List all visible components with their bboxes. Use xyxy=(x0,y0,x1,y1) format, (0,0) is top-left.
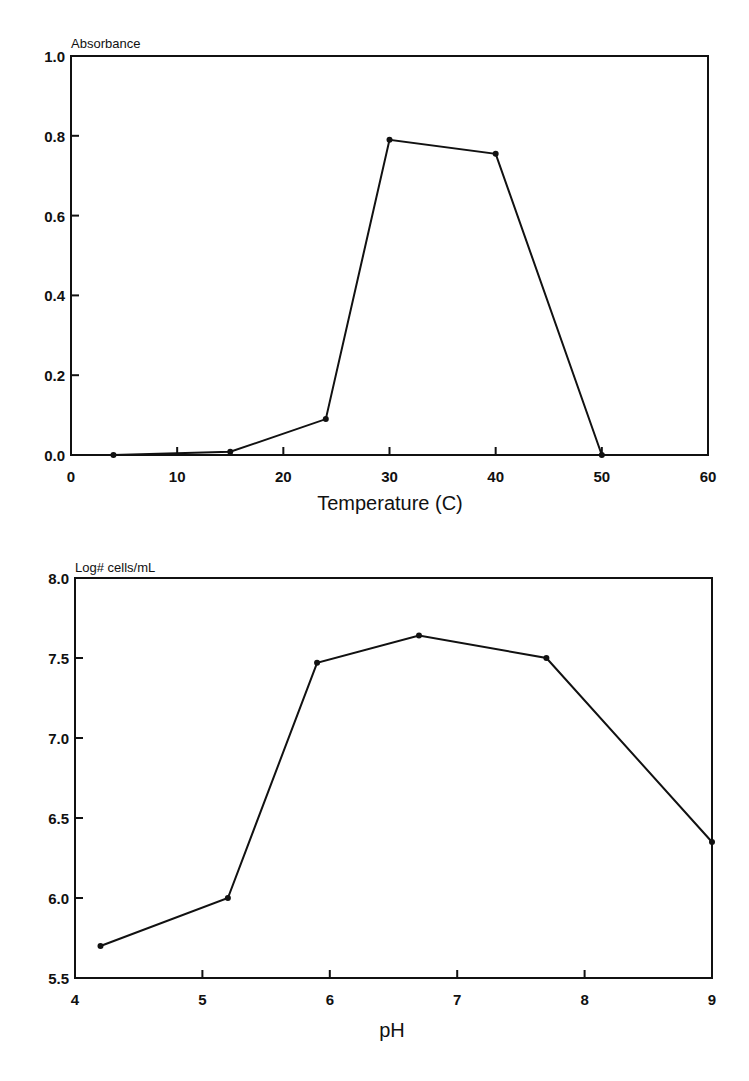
y-axis: 5.56.06.57.07.58.0 xyxy=(48,570,83,987)
plot-frame xyxy=(71,56,708,455)
data-line xyxy=(101,636,713,946)
data-line xyxy=(114,140,602,455)
y-axis-title: Log# cells/mL xyxy=(75,560,155,575)
data-point xyxy=(314,660,320,666)
y-tick-label: 7.5 xyxy=(48,650,69,667)
y-tick-label: 5.5 xyxy=(48,970,69,987)
y-tick-label: 1.0 xyxy=(44,48,65,65)
x-tick-label: 4 xyxy=(71,991,80,1008)
data-point xyxy=(493,151,499,157)
x-axis: 456789 xyxy=(71,970,716,1008)
x-tick-label: 50 xyxy=(593,468,610,485)
y-tick-label: 0.8 xyxy=(44,128,65,145)
data-point xyxy=(97,943,103,949)
y-tick-label: 0.0 xyxy=(44,447,65,464)
figure: Absorbance 0.00.20.40.60.81.0 0102030405… xyxy=(0,0,749,1081)
data-markers xyxy=(110,137,604,458)
x-tick-label: 7 xyxy=(453,991,461,1008)
y-tick-label: 7.0 xyxy=(48,730,69,747)
data-point xyxy=(416,633,422,639)
x-tick-label: 0 xyxy=(67,468,75,485)
y-tick-label: 0.6 xyxy=(44,208,65,225)
x-axis-title: Temperature (C) xyxy=(317,492,463,514)
x-tick-label: 9 xyxy=(708,991,716,1008)
data-point xyxy=(110,452,116,458)
data-point xyxy=(543,655,549,661)
x-tick-label: 60 xyxy=(700,468,717,485)
y-tick-label: 6.0 xyxy=(48,890,69,907)
plot-frame xyxy=(75,578,712,978)
x-tick-label: 10 xyxy=(169,468,186,485)
y-axis: 0.00.20.40.60.81.0 xyxy=(44,48,79,464)
x-tick-label: 20 xyxy=(275,468,292,485)
y-tick-label: 6.5 xyxy=(48,810,69,827)
x-axis-title: pH xyxy=(379,1019,405,1041)
y-axis-title: Absorbance xyxy=(71,36,140,51)
data-point xyxy=(599,452,605,458)
x-tick-label: 8 xyxy=(580,991,588,1008)
data-point xyxy=(387,137,393,143)
data-markers xyxy=(97,633,715,949)
data-point xyxy=(227,449,233,455)
data-point xyxy=(323,416,329,422)
y-tick-label: 8.0 xyxy=(48,570,69,587)
x-tick-label: 40 xyxy=(487,468,504,485)
x-tick-label: 30 xyxy=(381,468,398,485)
x-tick-label: 5 xyxy=(198,991,206,1008)
ph-cell-count-chart: Log# cells/mL 5.56.06.57.07.58.0 456789 … xyxy=(48,560,716,1041)
x-tick-label: 6 xyxy=(326,991,334,1008)
y-tick-label: 0.2 xyxy=(44,367,65,384)
data-point xyxy=(225,895,231,901)
y-tick-label: 0.4 xyxy=(44,287,66,304)
data-point xyxy=(709,839,715,845)
temperature-absorbance-chart: Absorbance 0.00.20.40.60.81.0 0102030405… xyxy=(44,36,716,514)
